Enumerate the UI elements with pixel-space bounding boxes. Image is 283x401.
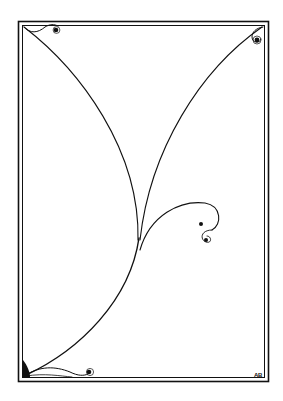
inner-frame xyxy=(23,26,265,378)
branch-curve xyxy=(140,203,219,250)
bottom-left-corner-fill xyxy=(23,360,30,377)
dot-spiral-lower xyxy=(204,238,208,242)
main-stem-curve xyxy=(26,238,139,375)
outer-frame xyxy=(19,22,269,382)
spiral-dots xyxy=(23,27,261,377)
left-arc-curve xyxy=(24,27,138,240)
dot-top-left xyxy=(54,28,59,33)
artist-monogram: AB xyxy=(254,372,262,378)
dot-top-right xyxy=(255,38,260,43)
flourish-lines xyxy=(24,25,263,377)
dot-bottom xyxy=(87,370,92,375)
double-frame-border xyxy=(19,22,269,382)
bottom-flourish xyxy=(26,368,88,375)
illustration-canvas xyxy=(0,0,283,401)
bottom-flourish-2 xyxy=(26,375,72,377)
right-arc-curve xyxy=(140,27,262,240)
dot-spiral-upper xyxy=(199,222,203,226)
